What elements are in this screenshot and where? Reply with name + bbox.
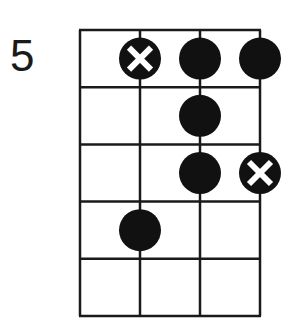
fretboard-grid [0, 0, 295, 336]
note-dot-icon [179, 38, 221, 80]
root-note-marker [239, 152, 281, 194]
note-dot-icon [179, 95, 221, 137]
note-dot-icon [179, 152, 221, 194]
grid-lines [79, 30, 261, 316]
note-dot-icon [239, 38, 281, 80]
note-dot-icon [119, 209, 161, 251]
root-note-marker [119, 38, 161, 80]
